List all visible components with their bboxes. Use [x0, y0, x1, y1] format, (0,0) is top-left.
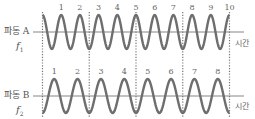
freq-subscript: 1 — [20, 46, 24, 53]
peak-number-label: 1 — [59, 4, 64, 12]
wave-b-time-label: 시간 — [235, 103, 249, 111]
peak-number-label: 7 — [192, 68, 197, 76]
peak-number-label: 6 — [169, 68, 174, 76]
peak-number-label: 6 — [152, 4, 157, 12]
peak-number-label: 2 — [75, 68, 80, 76]
peak-number-label: 4 — [122, 68, 127, 76]
wave-b-label: 파동 B — [4, 91, 29, 100]
wave-b-frequency: f2 — [16, 105, 24, 117]
peak-number-label: 4 — [115, 4, 120, 12]
freq-subscript: 2 — [20, 110, 24, 117]
peak-number-label: 8 — [215, 68, 220, 76]
peak-number-label: 7 — [171, 4, 176, 12]
peak-number-label: 5 — [133, 4, 138, 12]
wave-canvas — [0, 0, 255, 119]
peak-number-label: 9 — [208, 4, 213, 12]
wave-a-frequency: f1 — [16, 41, 24, 53]
beat-wave-diagram: 파동 A f1 시간 파동 B f2 시간 12345678910 123456… — [0, 0, 255, 119]
peak-number-label: 1 — [52, 68, 57, 76]
peak-number-label: 5 — [145, 68, 150, 76]
peak-number-label: 8 — [190, 4, 195, 12]
wave-a-label: 파동 A — [4, 27, 29, 36]
peak-number-label: 10 — [224, 4, 234, 12]
wave-a-time-label: 시간 — [235, 40, 249, 48]
peak-number-label: 2 — [77, 4, 82, 12]
peak-number-label: 3 — [96, 4, 101, 12]
peak-number-label: 3 — [98, 68, 103, 76]
